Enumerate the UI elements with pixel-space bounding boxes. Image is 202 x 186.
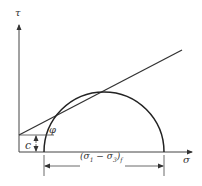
- diameter-label-part: (σ: [80, 151, 90, 161]
- diameter-label: (σ1 − σ3)f: [80, 152, 122, 163]
- mohr-semicircle: [44, 92, 164, 152]
- diameter-label-subf: f: [120, 156, 122, 163]
- friction-angle-label: φ: [49, 125, 56, 135]
- sigma-axis-label: σ: [183, 155, 190, 165]
- cohesion-label: c: [25, 140, 31, 151]
- mohr-circle-diagram: τ σ c φ (σ1 − σ3)f: [0, 0, 202, 186]
- diameter-label-part: − σ: [93, 151, 112, 161]
- tau-axis-label: τ: [15, 8, 21, 18]
